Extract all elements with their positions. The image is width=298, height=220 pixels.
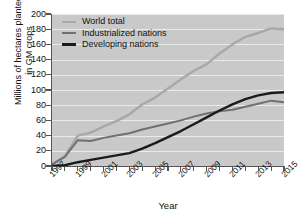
y-axis-tick [46, 59, 51, 60]
legend-item-label: World total [82, 16, 125, 27]
y-axis-tick [46, 13, 51, 14]
chart-legend: World totalIndustrialized nationsDevelop… [62, 16, 167, 51]
legend-swatch-icon [62, 32, 76, 34]
legend-item: World total [62, 16, 167, 27]
y-axis-tick [46, 150, 51, 151]
y-axis-tick [46, 120, 51, 121]
x-axis-tick [116, 167, 117, 171]
x-axis-tick [219, 167, 220, 171]
y-axis-tick [46, 74, 51, 75]
legend-item-label: Developing nations [82, 39, 159, 50]
y-axis-tick-label: 140 [6, 54, 46, 64]
legend-item-label: Industrialized nations [82, 28, 167, 39]
x-axis-tick [245, 167, 246, 171]
y-axis-tick [46, 29, 51, 30]
y-axis-tick [46, 44, 51, 45]
y-axis-tick-label: 200 [6, 9, 46, 19]
y-axis-tick [46, 165, 51, 166]
y-axis-tick-label: 180 [6, 24, 46, 34]
y-axis-tick-label: 120 [6, 69, 46, 79]
y-axis-tick-label: 20 [6, 145, 46, 155]
legend-item: Industrialized nations [62, 28, 167, 39]
legend-swatch-icon [62, 21, 76, 23]
chart-figure: Millions of hectares planted in GM crops… [0, 0, 298, 220]
y-axis-tick-label: 80 [6, 100, 46, 110]
x-axis-tick [167, 167, 168, 171]
y-axis-spine [51, 14, 52, 167]
y-axis-tick-label: 100 [6, 85, 46, 95]
y-axis-tick-label: 60 [6, 115, 46, 125]
x-axis-title: Year [52, 200, 284, 211]
x-axis-tick [142, 167, 143, 171]
legend-item: Developing nations [62, 39, 167, 50]
x-axis-tick [271, 167, 272, 171]
y-axis-tick-label: 40 [6, 130, 46, 140]
y-axis-tick [46, 105, 51, 106]
x-axis-tick [90, 167, 91, 171]
y-axis-tick-label: 0 [6, 161, 46, 171]
legend-swatch-icon [62, 43, 76, 46]
y-axis-tick [46, 135, 51, 136]
x-axis-tick [193, 167, 194, 171]
x-axis-tick [64, 167, 65, 171]
y-axis-tick [46, 89, 51, 90]
y-axis-tick-label: 160 [6, 39, 46, 49]
series-line-2 [52, 92, 284, 166]
